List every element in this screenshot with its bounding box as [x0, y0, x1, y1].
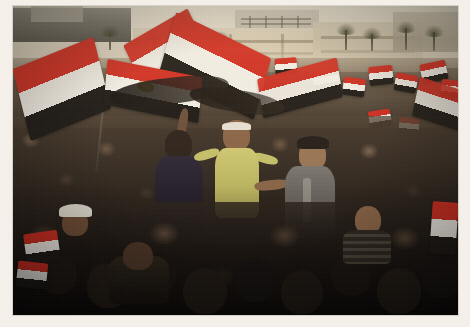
- flag-small-05: [368, 65, 394, 86]
- image-caption: Dense crowd of protesters fills a public…: [0, 0, 1, 1]
- man-black-jacket-foreground: [109, 242, 169, 304]
- flag-small-04: [342, 77, 366, 98]
- white-cap: [59, 204, 92, 217]
- flag-small-02: [16, 261, 49, 290]
- white-headband: [222, 122, 251, 130]
- head: [235, 258, 275, 302]
- head: [423, 256, 458, 298]
- head: [123, 242, 153, 270]
- flag-small-01: [23, 230, 61, 264]
- head: [281, 270, 323, 314]
- torso: [343, 230, 391, 264]
- dark-cap: [297, 136, 329, 149]
- photo-frame: Dense crowd of protesters fills a public…: [0, 0, 470, 327]
- man-white-cap-left: [59, 202, 93, 236]
- head: [183, 268, 227, 314]
- man-striped-shirt-right: [343, 206, 391, 262]
- photograph: [13, 6, 458, 315]
- skyline-building-left-upper: [31, 6, 83, 22]
- flag-small-11: [429, 201, 458, 255]
- flag-small-06: [394, 72, 419, 94]
- head: [377, 268, 421, 314]
